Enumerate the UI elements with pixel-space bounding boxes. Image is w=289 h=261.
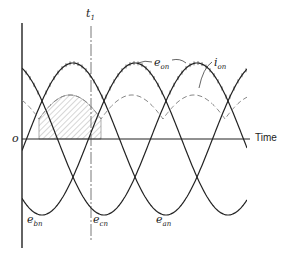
- i-on-label: ion: [214, 57, 226, 71]
- time-axis-label: Time: [255, 133, 277, 143]
- e-cn-label: ecn: [93, 214, 108, 228]
- e-on-label: eon: [154, 57, 169, 71]
- t1-label: t1: [86, 8, 95, 22]
- e-bn-label: ebn: [27, 214, 43, 228]
- origin-label: o: [12, 133, 19, 144]
- e-an-label: ean: [156, 214, 171, 228]
- three-phase-waveform-diagram: [0, 0, 289, 261]
